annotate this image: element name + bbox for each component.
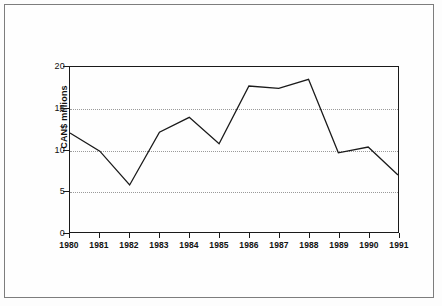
x-tick-mark-1982 (129, 233, 130, 238)
data-series-line (70, 67, 398, 232)
x-tick-mark-1989 (339, 233, 340, 238)
x-tick-label-1981: 1981 (89, 240, 108, 250)
x-tick-mark-1981 (99, 233, 100, 238)
x-tick-label-1984: 1984 (179, 240, 198, 250)
x-tick-mark-1991 (399, 233, 400, 238)
x-tick-label-1991: 1991 (389, 240, 408, 250)
x-tick-label-1985: 1985 (209, 240, 228, 250)
x-axis-tick-labels: 1980198119821983198419851986198719881989… (69, 240, 399, 254)
chart-screenshot: CAN$ millions 05101520 19801981198219831… (0, 0, 442, 306)
x-tick-mark-1980 (69, 233, 70, 238)
x-tick-mark-1984 (189, 233, 190, 238)
x-tick-label-1990: 1990 (359, 240, 378, 250)
plot-area (69, 66, 399, 233)
x-tick-label-1980: 1980 (59, 240, 78, 250)
line-chart-figure: CAN$ millions 05101520 19801981198219831… (0, 0, 442, 306)
x-tick-mark-1985 (219, 233, 220, 238)
x-tick-label-1987: 1987 (269, 240, 288, 250)
x-tick-label-1986: 1986 (239, 240, 258, 250)
x-tick-mark-1990 (369, 233, 370, 238)
x-tick-mark-1988 (309, 233, 310, 238)
x-tick-mark-1983 (159, 233, 160, 238)
x-tick-label-1983: 1983 (149, 240, 168, 250)
x-tick-label-1982: 1982 (119, 240, 138, 250)
x-tick-label-1988: 1988 (299, 240, 318, 250)
x-axis-tick-marks (69, 233, 399, 239)
x-tick-mark-1987 (279, 233, 280, 238)
x-tick-mark-1986 (249, 233, 250, 238)
x-tick-label-1989: 1989 (329, 240, 348, 250)
